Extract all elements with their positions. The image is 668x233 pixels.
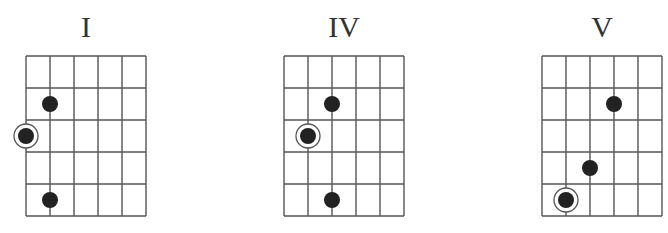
note-dot-icon: [582, 160, 598, 176]
root-note-dot-icon: [558, 192, 574, 208]
fretboard-grid: [0, 0, 668, 233]
note-dot-icon: [606, 96, 622, 112]
